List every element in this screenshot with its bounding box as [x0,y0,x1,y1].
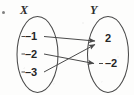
range-set-label: Y [90,4,97,16]
domain-element-neg2: –2 [25,49,37,60]
range-element-2: 2 [105,33,111,44]
domain-element-neg1: –1 [25,31,37,42]
range-element-neg2: –2 [105,58,117,69]
arrow-neg1-to-2 [44,37,95,42]
domain-set-label: X [20,4,28,16]
domain-element-neg3: –3 [25,67,37,78]
mapping-diagram-figure: X Y –1 –2 –3 2 –2 [0,0,134,95]
range-oval [88,17,129,93]
